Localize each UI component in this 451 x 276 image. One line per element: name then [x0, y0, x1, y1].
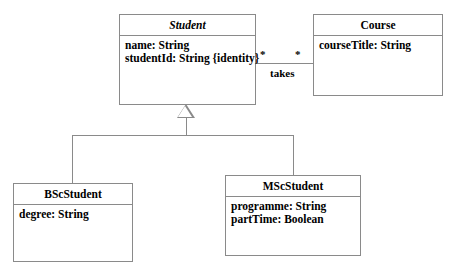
- association-line-takes: [255, 63, 313, 64]
- class-attributes-course: courseTitle: String: [314, 36, 442, 54]
- class-name-course: Course: [314, 15, 442, 36]
- class-name-msc-student: MScStudent: [226, 176, 360, 197]
- attribute-bsc-degree: degree: String: [19, 208, 127, 221]
- class-name-bsc-student: BScStudent: [14, 184, 132, 205]
- generalization-drop-bsc: [72, 135, 73, 183]
- generalization-drop-msc: [293, 135, 294, 175]
- attribute-student-id: studentId: String {identity}: [125, 52, 250, 65]
- association-multiplicity-source: *: [260, 49, 266, 60]
- attribute-course-title: courseTitle: String: [319, 39, 437, 52]
- class-box-msc-student[interactable]: MScStudent programme: String partTime: B…: [225, 175, 361, 256]
- class-name-student: Student: [120, 15, 255, 36]
- class-attributes-bsc-student: degree: String: [14, 205, 132, 223]
- association-multiplicity-target: *: [295, 49, 301, 60]
- attribute-student-name: name: String: [125, 39, 250, 52]
- class-attributes-msc-student: programme: String partTime: Boolean: [226, 197, 360, 228]
- attribute-msc-programme: programme: String: [231, 200, 355, 213]
- class-attributes-student: name: String studentId: String {identity…: [120, 36, 255, 67]
- generalization-branch-line: [72, 135, 294, 136]
- association-label-takes: takes: [270, 67, 294, 79]
- class-box-student[interactable]: Student name: String studentId: String {…: [119, 14, 256, 105]
- uml-class-diagram: * * takes Student name: String studentId…: [0, 0, 451, 276]
- class-box-course[interactable]: Course courseTitle: String: [313, 14, 443, 96]
- class-box-bsc-student[interactable]: BScStudent degree: String: [13, 183, 133, 262]
- attribute-msc-parttime: partTime: Boolean: [231, 213, 355, 226]
- generalization-stem: [186, 117, 187, 136]
